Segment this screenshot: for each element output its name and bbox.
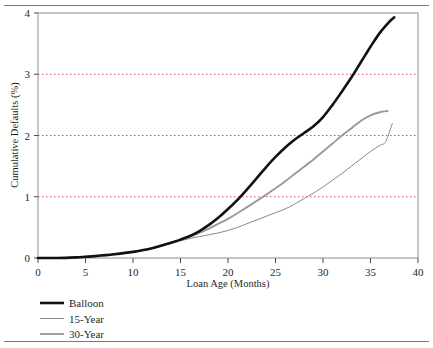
x-tick-label-35: 35 xyxy=(365,266,377,278)
x-tick-label-10: 10 xyxy=(128,266,140,278)
line-chart: 01234 0510152025303540 Cumulative Defaul… xyxy=(0,0,433,348)
y-tick-label-0: 0 xyxy=(25,252,31,264)
legend-label-15-year: 15-Year xyxy=(69,313,104,325)
x-tick-label-20: 20 xyxy=(223,266,235,278)
y-tick-label-4: 4 xyxy=(25,7,31,19)
series-line-30-year xyxy=(38,111,388,258)
y-tick-label-3: 3 xyxy=(25,68,31,80)
x-tick-label-5: 5 xyxy=(83,266,89,278)
legend-label-30-year: 30-Year xyxy=(69,328,104,340)
x-axis-ticks: 0510152025303540 xyxy=(35,258,424,278)
x-tick-label-0: 0 xyxy=(35,266,41,278)
data-series-group xyxy=(38,17,394,258)
series-line-15-year xyxy=(38,123,392,258)
y-tick-label-1: 1 xyxy=(25,191,31,203)
x-tick-label-40: 40 xyxy=(413,266,425,278)
y-tick-label-2: 2 xyxy=(25,130,31,142)
x-tick-label-30: 30 xyxy=(318,266,330,278)
figure-container: 01234 0510152025303540 Cumulative Defaul… xyxy=(0,0,433,348)
chart-legend: Balloon15-Year30-Year xyxy=(40,297,104,340)
x-axis-title: Loan Age (Months) xyxy=(187,278,270,290)
x-tick-label-25: 25 xyxy=(270,266,282,278)
y-axis-title: Cumulative Defaults (%) xyxy=(9,82,21,188)
x-tick-label-15: 15 xyxy=(175,266,187,278)
y-axis-ticks: 01234 xyxy=(25,7,39,264)
gridlines xyxy=(38,74,418,197)
legend-label-balloon: Balloon xyxy=(69,297,104,309)
